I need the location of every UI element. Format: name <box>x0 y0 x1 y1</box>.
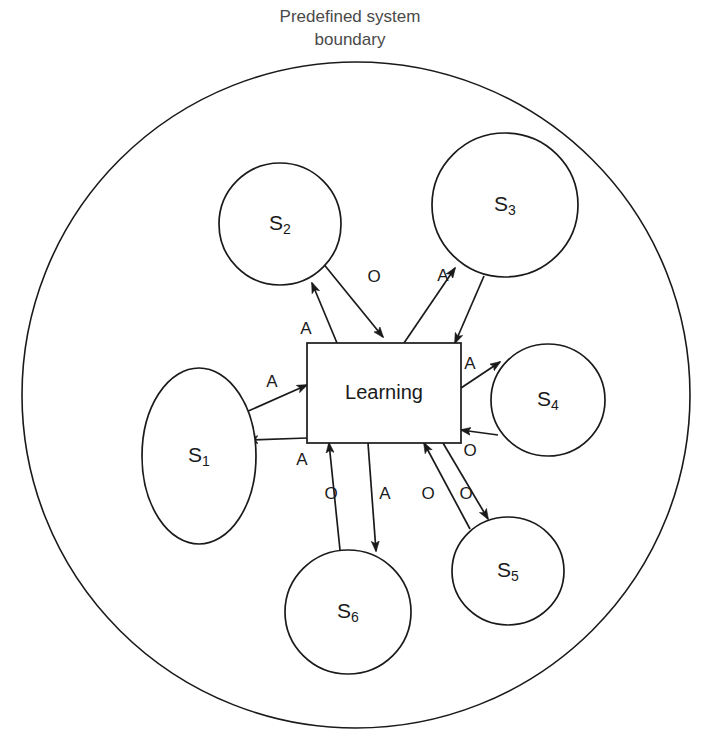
edge-learning-to-s5-label: O <box>421 484 434 503</box>
edge-learning-to-s3-label: A <box>437 266 449 285</box>
edge-learning-to-s6-label: A <box>379 484 391 503</box>
edge-s6-to-learning-label: O <box>324 484 337 503</box>
edge-learning-to-s2-label: A <box>300 319 312 338</box>
edge-s4-to-learning-label: O <box>463 441 476 460</box>
edge-learning-to-s1-label: A <box>296 450 308 469</box>
edge-learning-to-s2 <box>312 283 337 343</box>
caption-line-1: Predefined system <box>280 7 421 26</box>
caption-line-2: boundary <box>315 30 386 49</box>
learning-box-label: Learning <box>345 381 423 403</box>
edge-s2-to-learning-label: O <box>367 267 380 286</box>
system-boundary-diagram: Predefined system boundary S1S2S3S4S5S6 … <box>0 0 703 746</box>
diagram-root: Predefined system boundary S1S2S3S4S5S6 … <box>0 0 703 746</box>
edge-learning-to-s4-label: A <box>464 354 476 373</box>
edge-s1-to-learning-label: A <box>266 372 278 391</box>
edge-learning-to-s1 <box>248 438 307 440</box>
edge-s4-to-learning <box>461 430 498 435</box>
edge-s3-to-learning <box>455 276 484 343</box>
edge-s5-to-learning-label: O <box>459 484 472 503</box>
edge-learning-to-s6 <box>368 443 376 551</box>
